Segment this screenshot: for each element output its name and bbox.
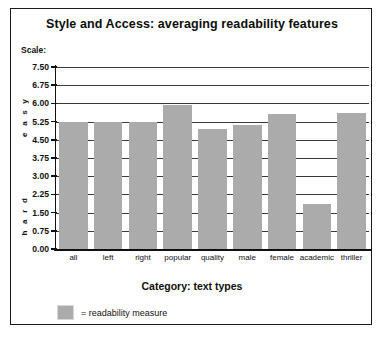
- y-axis-tick-label: 6.75: [32, 81, 49, 90]
- bar-popular: [163, 105, 192, 249]
- chart-frame: Style and Access: averaging readability …: [10, 8, 372, 325]
- x-axis-line: [54, 249, 371, 251]
- y-axis-tick-label: 6.00: [32, 99, 49, 108]
- y-axis-tick-label: 3.00: [32, 172, 49, 181]
- bar-academic: [303, 204, 332, 249]
- y-axis-tick-label: 5.25: [32, 117, 49, 126]
- x-axis-label-quality: quality: [195, 253, 230, 262]
- y-axis-tick: [51, 175, 57, 177]
- y-axis-tick: [51, 103, 57, 105]
- bar-thriller: [337, 113, 366, 249]
- x-axis-label-right: right: [126, 253, 161, 262]
- bar-series: [56, 67, 369, 249]
- axis-annotation-hard: h a r d: [20, 196, 29, 235]
- y-axis-tick-label: 2.25: [32, 190, 49, 199]
- y-axis-tick: [51, 157, 57, 159]
- y-axis-tick-label: 4.50: [32, 136, 49, 145]
- x-axis-label-thriller: thriller: [334, 253, 369, 262]
- bar-right: [129, 122, 158, 249]
- x-axis-label-left: left: [91, 253, 126, 262]
- y-axis-tick: [51, 194, 57, 196]
- legend-swatch-icon: [57, 305, 74, 320]
- x-axis-label-academic: academic: [299, 253, 334, 262]
- bar-female: [268, 114, 297, 249]
- x-axis-label-popular: popular: [160, 253, 195, 262]
- chart-legend: = readability measure: [57, 305, 167, 320]
- y-axis-title: Scale:: [21, 45, 46, 55]
- y-axis-tick: [51, 230, 57, 232]
- y-axis-tick-label: 0.00: [32, 245, 49, 254]
- x-axis-title: Category: text types: [11, 280, 373, 292]
- bar-male: [233, 125, 262, 249]
- x-axis-label-male: male: [230, 253, 265, 262]
- y-axis-tick: [51, 139, 57, 141]
- plot-area: 7.506.756.005.254.503.753.002.251.500.75…: [56, 67, 369, 249]
- bar-left: [94, 122, 123, 249]
- y-axis-tick: [51, 121, 57, 123]
- y-axis-tick: [51, 66, 57, 68]
- bar-quality: [198, 129, 227, 249]
- y-axis-tick-label: 7.50: [32, 63, 49, 72]
- y-axis-tick: [51, 248, 57, 250]
- axis-annotation-easy: e a s y: [20, 97, 29, 137]
- x-axis-label-all: all: [56, 253, 91, 262]
- y-axis-tick-label: 3.75: [32, 154, 49, 163]
- y-axis-tick: [51, 212, 57, 214]
- y-axis-tick-label: 0.75: [32, 227, 49, 236]
- chart-title: Style and Access: averaging readability …: [11, 17, 373, 31]
- y-axis-tick-label: 1.50: [32, 208, 49, 217]
- y-axis-tick: [51, 84, 57, 86]
- bar-all: [59, 122, 88, 249]
- x-axis-label-female: female: [265, 253, 300, 262]
- legend-label: = readability measure: [81, 308, 167, 318]
